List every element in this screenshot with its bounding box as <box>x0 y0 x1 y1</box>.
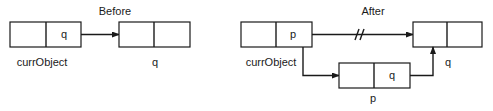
after-node-p: q <box>339 63 410 88</box>
after-node-current: p <box>241 22 312 47</box>
before-node-current: q <box>10 22 81 47</box>
before-title: Before <box>99 5 131 17</box>
before-q-label: q <box>152 56 158 68</box>
p-to-q-arrow <box>410 47 433 76</box>
before-node-q <box>119 22 190 47</box>
after-q-label: q <box>445 56 451 68</box>
current-to-p-arrow <box>303 47 339 76</box>
node-right-cell: q <box>389 69 395 81</box>
after-current-label: currObject <box>246 56 297 68</box>
after-p-label: p <box>370 92 376 104</box>
before-panel: Before q currObject q <box>10 5 190 68</box>
node-right-cell: p <box>290 28 296 40</box>
linked-list-insert-diagram: Before q currObject q After p currObject <box>0 0 493 111</box>
after-panel: After p currObject q q p <box>241 5 482 104</box>
after-node-q <box>413 22 482 47</box>
before-current-label: currObject <box>17 56 68 68</box>
after-title: After <box>361 5 385 17</box>
node-right-cell: q <box>61 28 67 40</box>
